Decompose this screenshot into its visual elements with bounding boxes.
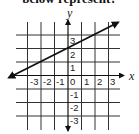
y-tick: -1: [70, 89, 78, 100]
x-tick-labels: -3 -2 -1 0 1 2 3: [30, 76, 115, 87]
x-tick: -2: [43, 76, 51, 87]
x-tick: 0: [70, 76, 75, 87]
x-tick: 1: [84, 76, 89, 87]
coordinate-plane: y x -3 -2 -1 0 1 2 3 3 2 1 -1 -2 -3: [0, 0, 139, 134]
y-tick: 1: [70, 62, 75, 73]
x-tick: 2: [97, 76, 102, 87]
x-axis-label: x: [128, 69, 135, 83]
y-tick: -3: [70, 115, 78, 126]
x-tick: -3: [30, 76, 38, 87]
y-tick: 3: [70, 35, 75, 46]
y-tick: -2: [70, 102, 78, 113]
x-tick: 3: [110, 76, 115, 87]
y-axis-label: y: [66, 6, 73, 20]
graphed-line: [9, 49, 67, 78]
y-tick: 2: [70, 49, 75, 60]
x-tick: -1: [56, 76, 64, 87]
